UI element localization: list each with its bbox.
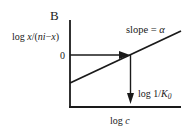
y-axis-label: log x/(ni−x) <box>12 31 59 43</box>
panel-label: B <box>50 8 59 23</box>
slope-label: slope = α <box>126 24 165 35</box>
fit-line <box>70 31 181 83</box>
vertical-arrowhead-icon <box>127 93 134 104</box>
intercept-label: log 1/K0 <box>138 88 172 101</box>
y-tick-zero: 0 <box>60 50 65 61</box>
x-axis-label: log c <box>110 115 130 126</box>
langmuir-type-plot: B log x/(ni−x) 0 slope = α log 1/K0 log … <box>0 0 188 128</box>
